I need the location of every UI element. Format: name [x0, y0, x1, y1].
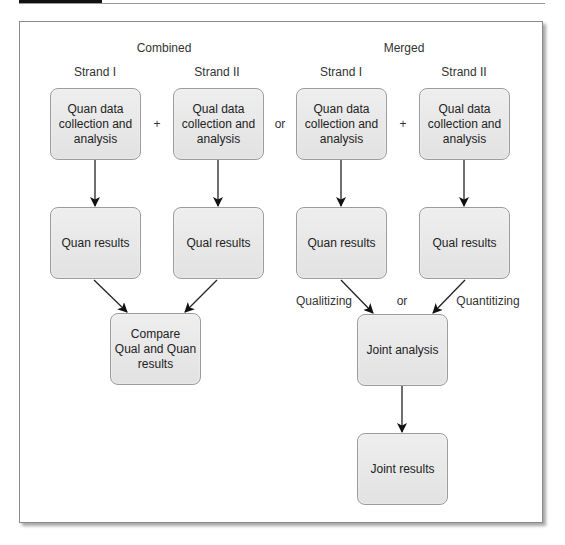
- strand-label-combined-1: Strand I: [74, 65, 116, 79]
- operator-plus-right: +: [399, 117, 406, 131]
- box-combined-qual-collection: Qual data collection and analysis: [173, 88, 264, 160]
- box-merged-qual-results: Qual results: [419, 207, 510, 279]
- box-combined-qual-results: Qual results: [173, 207, 264, 279]
- box-label: Quan data collection and analysis: [59, 102, 132, 147]
- section-title-combined: Combined: [137, 41, 192, 55]
- box-label: Quan results: [61, 236, 129, 251]
- edge-label-qualitizing: Qualitizing: [296, 294, 352, 308]
- box-combined-quan-collection: Quan data collection and analysis: [50, 88, 141, 160]
- box-label: Quan results: [307, 236, 375, 251]
- strand-label-combined-2: Strand II: [194, 65, 239, 79]
- box-label: Joint results: [370, 462, 434, 477]
- box-merged-qual-collection: Qual data collection and analysis: [419, 88, 510, 160]
- edge-label-quantitizing: Quantitizing: [456, 294, 519, 308]
- strand-label-merged-1: Strand I: [320, 65, 362, 79]
- box-label: Quan data collection and analysis: [305, 102, 378, 147]
- box-label: Qual results: [432, 236, 496, 251]
- box-label: Qual results: [186, 236, 250, 251]
- header-rule: [19, 3, 545, 4]
- box-combined-quan-results: Quan results: [50, 207, 141, 279]
- operator-plus-left: +: [153, 117, 160, 131]
- box-label: Compare Qual and Quan results: [115, 327, 196, 372]
- box-label: Qual data collection and analysis: [428, 102, 501, 147]
- box-label: Joint analysis: [366, 343, 438, 358]
- box-compare-results: Compare Qual and Quan results: [110, 313, 201, 385]
- box-joint-results: Joint results: [357, 433, 448, 505]
- box-label: Qual data collection and analysis: [182, 102, 255, 147]
- box-merged-quan-results: Quan results: [296, 207, 387, 279]
- strand-label-merged-2: Strand II: [441, 65, 486, 79]
- section-title-merged: Merged: [384, 41, 425, 55]
- operator-or-bottom: or: [397, 294, 408, 308]
- box-joint-analysis: Joint analysis: [357, 314, 448, 386]
- box-merged-quan-collection: Quan data collection and analysis: [296, 88, 387, 160]
- operator-or-middle: or: [275, 117, 286, 131]
